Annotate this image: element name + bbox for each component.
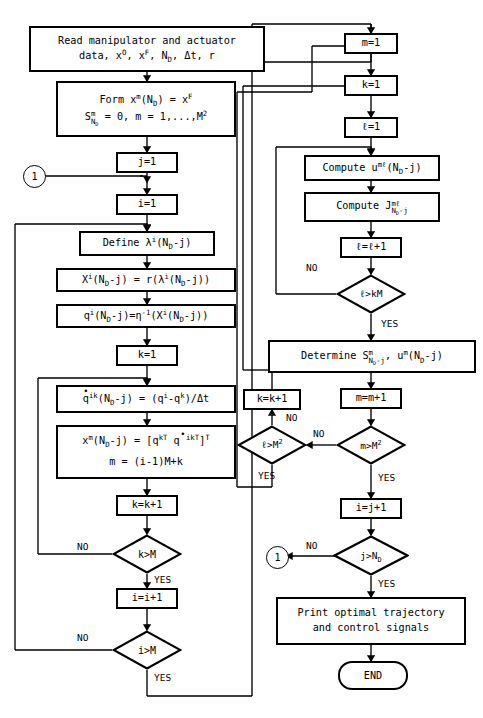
node-decision-j-gt-ND: j>ND xyxy=(333,535,409,576)
edge-label-no-lkM: NO xyxy=(306,262,317,273)
node-k-init-left: k=1 xyxy=(116,345,178,366)
i-init-label: i=1 xyxy=(138,197,156,212)
decision-j-gt-ND-label: j>ND xyxy=(360,550,381,561)
j-init-label: j=1 xyxy=(138,155,156,170)
node-decision-l-gt-kM: ℓ>kM xyxy=(336,274,406,314)
node-decision-i-gt-M: i>M xyxy=(112,630,182,670)
edge-label-yes-lkM: YES xyxy=(381,318,398,329)
compute-u-label: Compute umℓ(ND-j) xyxy=(322,161,421,176)
node-print-result: Print optimal trajectory and control sig… xyxy=(276,597,466,645)
decision-l-gt-M2-label: ℓ>M2 xyxy=(261,439,282,451)
node-k-incr-right: k=k+1 xyxy=(243,389,301,410)
edge-label-yes-jND: YES xyxy=(378,578,395,589)
edge-label-no-iM: NO xyxy=(77,632,88,643)
edge-label-yes-lM2: YES xyxy=(258,470,275,481)
node-determine-S: Determine SmND-j, um(ND-j) xyxy=(268,340,476,373)
i-incr-label: i=i+1 xyxy=(132,591,163,606)
form-x-line2: SmND = 0, m = 1,...,M2 xyxy=(85,110,207,125)
node-form-x: Form xm(ND) = xF SmND = 0, m = 1,...,M2 xyxy=(56,81,236,137)
node-decision-k-gt-M: k>M xyxy=(112,534,182,574)
edge-label-no-kM: NO xyxy=(77,541,88,552)
node-compute-J: Compute JmℓND-j xyxy=(304,192,440,222)
end-label: END xyxy=(364,670,382,681)
node-decision-m-gt-M2: m>M2 xyxy=(336,425,406,465)
node-i-incr: i=i+1 xyxy=(116,588,178,609)
k-init-right-label: k=1 xyxy=(362,78,380,93)
edge-label-no-lM2: NO xyxy=(286,412,297,423)
node-k-init-right: k=1 xyxy=(344,75,398,96)
node-xm-assemble: xm(ND-j) = [qkT q ikT]T m = (i-1)M+k xyxy=(56,425,236,479)
m-incr-label: m=m+1 xyxy=(356,391,387,406)
print-result-line1: Print optimal trajectory xyxy=(297,606,444,621)
node-read-data: Read manipulator and actuator data, xO, … xyxy=(29,26,265,72)
xm-assemble-line1: xm(ND-j) = [qkT q ikT]T xyxy=(82,434,209,449)
k-incr-left-label: k=k+1 xyxy=(132,498,163,513)
decision-l-gt-kM-label: ℓ>kM xyxy=(360,288,383,300)
form-x-line1: Form xm(ND) = xF xyxy=(85,93,207,108)
node-i-init: i=1 xyxy=(116,194,178,215)
decision-i-gt-M-label: i>M xyxy=(138,645,156,656)
qdot-label: qik(ND-j) = (qi-qk)/Δt xyxy=(83,392,209,407)
node-compute-q: qi(ND-j)=η-1(Xi(ND-j)) xyxy=(56,304,236,328)
node-decision-l-gt-M2: ℓ>M2 xyxy=(237,425,307,465)
read-data-line2: data, xO, xF, ND, Δt, r xyxy=(58,49,236,64)
node-compute-u: Compute umℓ(ND-j) xyxy=(304,155,440,181)
node-k-incr-left: k=k+1 xyxy=(116,495,178,516)
node-j-incr: i=j+1 xyxy=(340,498,402,519)
xm-assemble-line2: m = (i-1)M+k xyxy=(82,455,209,470)
l-incr-label: ℓ=ℓ+1 xyxy=(356,240,387,255)
node-compute-X: Xi(ND-j) = r(λi(ND-j)) xyxy=(56,268,236,292)
decision-m-gt-M2-label: m>M2 xyxy=(360,440,381,451)
flowchart-canvas: Read manipulator and actuator data, xO, … xyxy=(0,0,483,718)
node-m-init: m=1 xyxy=(344,33,398,54)
l-init-label: ℓ=1 xyxy=(362,120,380,135)
k-incr-right-label: k=k+1 xyxy=(257,392,288,407)
compute-X-label: Xi(ND-j) = r(λi(ND-j)) xyxy=(82,273,210,288)
node-define-lambda: Define λi(ND-j) xyxy=(79,231,215,256)
node-m-incr: m=m+1 xyxy=(340,388,402,409)
node-end: END xyxy=(338,661,408,690)
connector-1-bottom: 1 xyxy=(266,546,289,569)
edge-label-yes-mM2: YES xyxy=(378,472,395,483)
define-lambda-label: Define λi(ND-j) xyxy=(103,236,192,251)
node-l-init: ℓ=1 xyxy=(344,117,398,138)
compute-q-label: qi(ND-j)=η-1(Xi(ND-j)) xyxy=(84,309,209,324)
j-incr-label: i=j+1 xyxy=(356,501,387,516)
print-result-line2: and control signals xyxy=(297,621,444,636)
edge-label-no-mM2: NO xyxy=(313,428,324,439)
decision-k-gt-M-label: k>M xyxy=(138,549,156,560)
m-init-label: m=1 xyxy=(362,36,380,51)
node-qdot: qik(ND-j) = (qi-qk)/Δt xyxy=(56,385,236,413)
node-l-incr: ℓ=ℓ+1 xyxy=(340,237,402,258)
edge-label-yes-kM: YES xyxy=(154,574,171,585)
node-j-init: j=1 xyxy=(116,152,178,173)
compute-J-label: Compute JmℓND-j xyxy=(336,199,408,214)
edge-label-yes-iM: YES xyxy=(154,672,171,683)
k-init-left-label: k=1 xyxy=(138,348,156,363)
determine-S-label: Determine SmND-j, um(ND-j) xyxy=(301,349,443,364)
connector-1-top: 1 xyxy=(23,165,46,188)
edge-label-no-jND: NO xyxy=(306,540,317,551)
